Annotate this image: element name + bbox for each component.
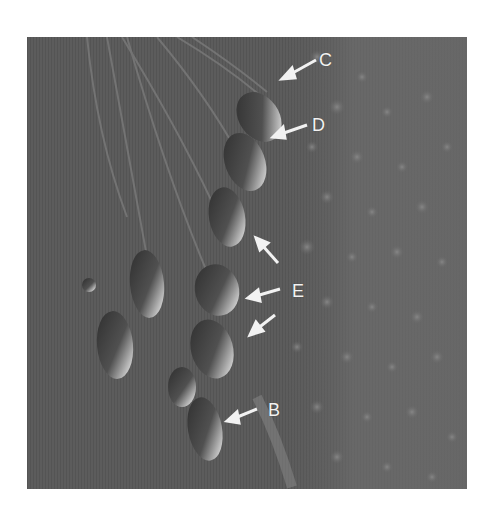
label-d: D xyxy=(312,116,325,134)
label-e: E xyxy=(292,282,304,300)
sperm-micrograph xyxy=(27,37,467,489)
label-b: B xyxy=(268,401,280,419)
micrograph-image xyxy=(27,37,467,489)
label-c: C xyxy=(319,51,332,69)
